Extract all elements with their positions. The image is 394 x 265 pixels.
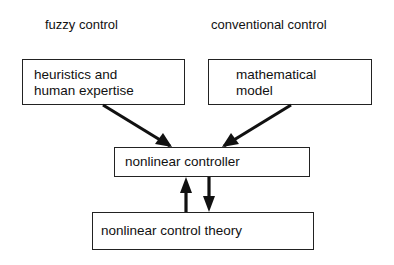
diagram-arrows bbox=[0, 0, 394, 265]
arrow-model-to-controller bbox=[222, 105, 291, 147]
arrow-heuristics-to-controller bbox=[103, 105, 172, 147]
arrow-controller-to-theory bbox=[203, 177, 215, 212]
arrow-theory-to-controller bbox=[180, 177, 192, 212]
